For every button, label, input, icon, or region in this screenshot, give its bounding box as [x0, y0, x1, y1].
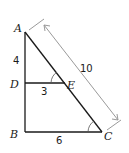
triangle-abc — [25, 32, 102, 132]
side-ac — [25, 32, 102, 132]
point-label-d: D — [9, 78, 19, 91]
length-label-bc: 6 — [56, 135, 62, 146]
point-label-a: A — [13, 22, 22, 35]
geometry-diagram: A D E B C 4 3 6 10 — [0, 0, 129, 153]
length-label-ac: 10 — [80, 63, 93, 74]
angle-mark-e — [51, 72, 57, 83]
length-label-de: 3 — [41, 86, 47, 97]
length-label-ad: 4 — [13, 55, 19, 66]
angle-mark-c — [88, 121, 94, 132]
point-label-e: E — [66, 79, 75, 92]
dimension-arrow-ac — [29, 19, 121, 130]
point-label-c: C — [104, 130, 113, 143]
point-label-b: B — [9, 128, 18, 141]
